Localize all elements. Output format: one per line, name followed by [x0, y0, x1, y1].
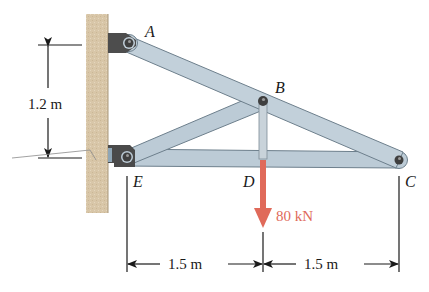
- wall: [86, 14, 108, 213]
- diagram-canvas: [0, 0, 429, 292]
- label-point-a: A: [145, 24, 155, 40]
- truss-diagram: A B C D E 1.2 m 1.5 m 1.5 m 80 kN: [0, 0, 429, 292]
- label-point-b: B: [275, 80, 285, 96]
- dimension-label-left: 1.5 m: [168, 256, 202, 272]
- label-point-e: E: [133, 174, 143, 190]
- member-bd: [259, 101, 267, 159]
- load-arrow: [254, 160, 272, 228]
- pin-a: [125, 39, 134, 48]
- pin-c: [395, 156, 404, 165]
- dimension-label-right: 1.5 m: [304, 256, 338, 272]
- pin-e: [123, 153, 132, 162]
- dimension-label-vertical: 1.2 m: [28, 96, 62, 112]
- label-point-c: C: [405, 174, 416, 190]
- label-point-d: D: [243, 174, 255, 190]
- load-label: 80 kN: [276, 208, 313, 224]
